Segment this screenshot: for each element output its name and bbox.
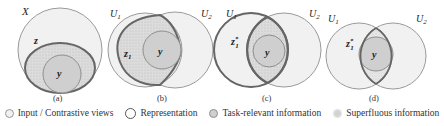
task-relevant-swatch-icon: [209, 109, 218, 118]
caption-d: (d): [369, 93, 379, 103]
label-u2: U2: [416, 13, 427, 26]
label-u2: U2: [309, 8, 320, 21]
label-u1: U1: [110, 8, 121, 21]
input-swatch-icon: [5, 109, 14, 118]
legend-label: Task-relevant information: [222, 108, 321, 118]
label-z: z: [33, 35, 38, 46]
legend-item-task-relevant: Task-relevant information: [209, 108, 321, 118]
caption-a: (a): [53, 93, 63, 103]
label-y: y: [157, 46, 163, 57]
panel-c: U1 U2 z*1 y (c): [214, 8, 321, 103]
caption-c: (c): [262, 93, 272, 103]
legend-item-representation: Representation: [125, 108, 197, 119]
superfluous-swatch-icon: [333, 109, 342, 118]
panel-a: X z y (a): [18, 5, 102, 103]
panel-d: U1 U2 z*1 y (d): [326, 13, 427, 103]
label-u1: U1: [328, 13, 339, 26]
label-y: y: [371, 49, 377, 60]
caption-b: (b): [157, 93, 167, 103]
legend-label: Input / Contrastive views: [18, 108, 114, 118]
label-u2: U2: [201, 8, 212, 21]
legend-item-input: Input / Contrastive views: [5, 108, 114, 118]
legend-item-superfluous: Superfluous information: [333, 108, 439, 118]
panel-b: U1 U2 z1 y (b): [108, 8, 213, 103]
legend: Input / Contrastive views Representation…: [0, 104, 444, 122]
label-y: y: [264, 47, 270, 58]
representation-swatch-icon: [125, 108, 136, 119]
task-relevant-y: [43, 55, 81, 93]
label-y: y: [56, 68, 62, 79]
legend-label: Superfluous information: [346, 108, 439, 118]
legend-label: Representation: [140, 108, 197, 118]
label-x: X: [21, 5, 30, 17]
